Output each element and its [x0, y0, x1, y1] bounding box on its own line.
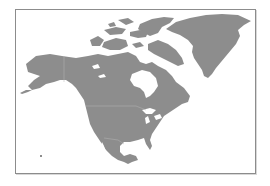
melville-island: [104, 27, 126, 35]
aleutian-islands: [20, 90, 32, 94]
baffin-island: [148, 40, 184, 66]
mainland-north-america: [26, 52, 190, 164]
victoria-island: [102, 38, 128, 50]
banks-island: [90, 36, 104, 46]
greenland: [166, 14, 251, 78]
north-america-map: [0, 0, 270, 186]
hawaii-islands: [40, 155, 42, 157]
